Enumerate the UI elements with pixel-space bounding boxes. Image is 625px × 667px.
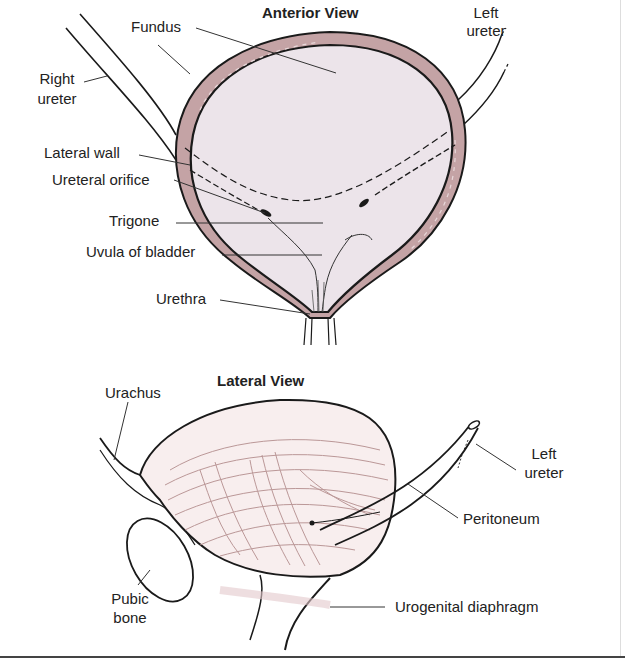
label-ureteral-orifice: Ureteral orifice	[52, 171, 150, 189]
label-lateral-wall: Lateral wall	[44, 144, 120, 162]
label-left-ureter-anterior-2: ureter	[462, 22, 510, 40]
label-pubic-bone-2: bone	[105, 609, 155, 627]
frame-edge	[620, 0, 621, 656]
anterior-view-title: Anterior View	[262, 4, 358, 21]
label-urachus: Urachus	[105, 384, 161, 402]
label-left-ureter-lateral-2: ureter	[520, 464, 568, 482]
label-pubic-bone-1: Pubic	[105, 590, 155, 608]
lateral-view-title: Lateral View	[217, 372, 304, 389]
label-right-ureter-1: Right	[33, 70, 81, 88]
label-fundus: Fundus	[131, 18, 181, 36]
label-uvula-of-bladder: Uvula of bladder	[86, 243, 195, 261]
label-peritoneum: Peritoneum	[463, 510, 540, 528]
label-urogenital-diaphragm: Urogenital diaphragm	[395, 598, 538, 616]
label-urethra: Urethra	[156, 290, 206, 308]
label-right-ureter-2: ureter	[33, 90, 81, 108]
label-left-ureter-anterior-1: Left	[462, 4, 510, 22]
label-left-ureter-lateral-1: Left	[520, 445, 568, 463]
bladder-anatomy-illustration	[0, 0, 625, 667]
bottom-divider	[0, 656, 625, 658]
label-trigone: Trigone	[109, 212, 159, 230]
